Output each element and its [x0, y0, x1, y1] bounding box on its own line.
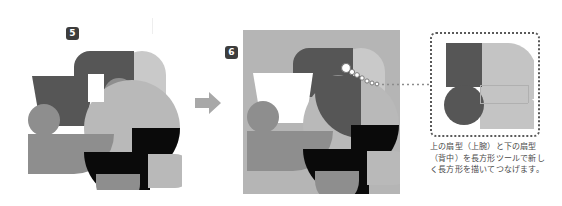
caption-line-2: （背中）を長方形ツールで新し: [430, 153, 550, 165]
shape-beak-highlight: [88, 74, 104, 102]
tutorial-figure: 5: [0, 0, 562, 206]
detail-guide-rect-upper: [480, 85, 528, 86]
shape-tail-fin: [148, 154, 182, 188]
shape-cheek: [28, 104, 60, 136]
shape-cheek: [247, 101, 279, 133]
shape-tail-bottom: [96, 174, 140, 190]
artwork-step-6: [243, 30, 400, 194]
detail-guide-rect-right: [528, 85, 529, 103]
shape-tail-bottom: [315, 171, 359, 194]
detail-back-circle: [444, 85, 484, 125]
detail-guide-rect-lower: [480, 103, 528, 104]
arrow-right-icon: [193, 90, 223, 116]
caption-block: 上の扇型（上腕）と下の扇型 （背中）を長方形ツールで新し く長方形を描いてつなげ…: [430, 141, 550, 176]
shape-tail-fin: [367, 151, 400, 185]
step-panel-6: 6: [225, 28, 400, 194]
detail-artwork: [440, 41, 534, 129]
detail-guide-rect-left: [480, 85, 481, 103]
step-badge-6: 6: [225, 46, 238, 59]
detail-upper-arm-rect: [446, 43, 482, 87]
caption-line-3: く長方形を描いてつなげます。: [430, 164, 550, 176]
caption-line-1: 上の扇型（上腕）と下の扇型: [430, 141, 550, 153]
detail-body-tail: [510, 97, 534, 129]
step-panel-5: 5: [22, 18, 182, 190]
step-badge-5: 5: [66, 27, 79, 40]
flow-arrow: [193, 90, 223, 116]
artwork-step-5: [22, 34, 182, 190]
detail-callout-panel: [430, 32, 540, 137]
